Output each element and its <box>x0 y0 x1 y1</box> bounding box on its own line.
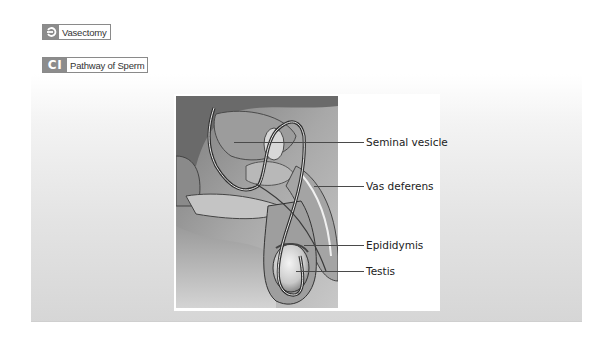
label-seminal-vesicle: Seminal vesicle <box>366 136 448 148</box>
callout-line-seminal-vesicle <box>234 142 364 143</box>
callout-line-epididymis <box>304 245 364 246</box>
anatomy-figure: Seminal vesicle Vas deferens Epididymis … <box>174 94 440 311</box>
return-arrow-icon-glyph <box>46 27 57 37</box>
callout-line-vas-deferens <box>314 186 364 187</box>
heading-label: Pathway of Sperm <box>67 58 147 72</box>
section-heading-pathway-of-sperm: CI Pathway of Sperm <box>42 57 148 73</box>
return-arrow-icon <box>43 25 59 39</box>
heading-label: Vasectomy <box>59 25 110 39</box>
label-testis: Testis <box>366 265 395 277</box>
section-heading-vasectomy: Vasectomy <box>42 24 111 40</box>
label-vas-deferens: Vas deferens <box>366 180 434 192</box>
callout-line-testis <box>296 271 364 272</box>
anatomy-illustration <box>176 96 338 308</box>
ci-badge: CI <box>43 58 67 72</box>
label-epididymis: Epididymis <box>366 239 423 251</box>
